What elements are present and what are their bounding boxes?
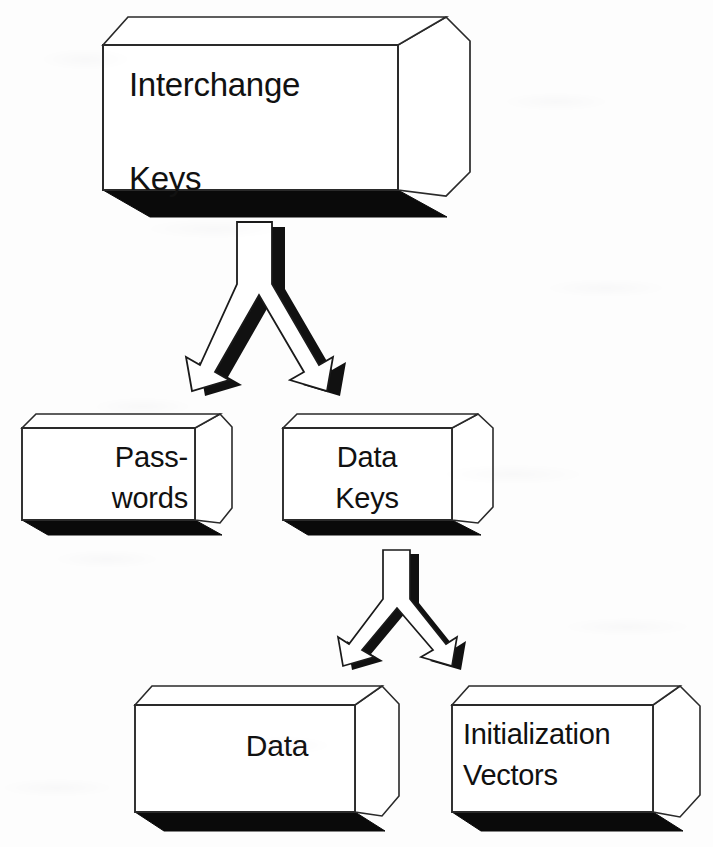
initialization-vectors-front-face [452, 705, 653, 812]
data-top-face [135, 686, 382, 705]
diagram-graphics [0, 0, 713, 847]
fork-bottom-arrow-body [338, 550, 457, 666]
initialization-vectors-side-face [653, 686, 700, 817]
diagram-canvas: InterchangeKeys Pass-words DataKeys Data… [0, 0, 713, 847]
interchange-keys-top-face [103, 17, 446, 45]
data-side-face [355, 686, 399, 816]
passwords-shadow [22, 520, 222, 535]
initialization-vectors-top-face [452, 686, 680, 705]
data-keys-box-shape[interactable] [283, 414, 493, 535]
passwords-front-face [22, 428, 195, 520]
passwords-box-shape[interactable] [22, 414, 232, 535]
forked-arrow-datakeys-to-children-shape[interactable] [338, 550, 466, 670]
initialization-vectors-shadow [452, 812, 683, 831]
data-keys-front-face [283, 428, 452, 520]
data-keys-shadow [283, 520, 481, 535]
forked-arrow-interchange-to-children-shape[interactable] [186, 222, 346, 396]
data-front-face [135, 705, 355, 812]
initialization-vectors-box-shape[interactable] [452, 686, 700, 831]
data-keys-side-face [452, 414, 493, 523]
interchange-keys-side-face [398, 17, 470, 196]
data-shadow [135, 812, 385, 831]
data-box-shape[interactable] [135, 686, 399, 831]
interchange-keys-front-face [103, 45, 398, 190]
passwords-side-face [195, 414, 232, 523]
interchange-keys-box-shape[interactable] [103, 17, 470, 217]
data-keys-top-face [283, 414, 478, 428]
interchange-keys-shadow [103, 190, 447, 217]
passwords-top-face [22, 414, 220, 428]
